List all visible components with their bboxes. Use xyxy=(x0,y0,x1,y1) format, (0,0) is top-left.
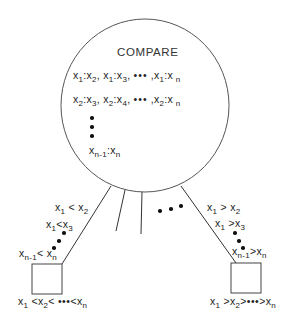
compare-title: COMPARE xyxy=(117,46,179,58)
left-leaf-label: x1 <x2< •••<xn xyxy=(18,296,87,310)
left-edge-ellipsis-dot xyxy=(62,231,66,235)
vertical-ellipsis-dot xyxy=(90,116,94,120)
right-edge-label-2: x1 >x3 xyxy=(215,218,245,232)
vertical-ellipsis-dot xyxy=(90,125,94,129)
comparison-row-last: xn-1:xn xyxy=(89,145,121,159)
left-edge-label-last: xn-1< xn xyxy=(19,248,57,262)
middle-branch-edge-2 xyxy=(141,192,142,234)
right-leaf-box xyxy=(231,263,261,293)
right-edge-ellipsis-dot xyxy=(237,239,241,243)
comparison-row-1: x1:x2, x1:x3, ••• ,x1:x n xyxy=(73,70,180,84)
row2-ellipsis: ••• xyxy=(134,93,148,105)
middle-branches-ellipsis-dot xyxy=(169,207,173,211)
middle-branch-edge-1 xyxy=(116,190,125,231)
middle-branches-ellipsis-dot xyxy=(179,204,183,208)
left-leaf-box xyxy=(32,264,62,294)
row1-ellipsis: ••• xyxy=(134,69,148,81)
vertical-ellipsis-dot xyxy=(90,134,94,138)
right-edge-label-1: x1 > x2 xyxy=(207,202,240,216)
comparison-row-2: x2:x3, x2:x4, ••• ,x2:x n xyxy=(73,94,180,108)
right-leaf-label: x1 >x2>•••>xn xyxy=(210,296,276,310)
right-edge-label-last: xn-1>xn xyxy=(232,246,267,260)
middle-branches-ellipsis-dot xyxy=(158,209,162,213)
left-edge-ellipsis-dot xyxy=(57,239,61,243)
right-edge-ellipsis-dot xyxy=(233,231,237,235)
left-edge-label-2: x1<x3 xyxy=(46,219,73,233)
left-edge-label-1: x1 < x2 xyxy=(55,202,88,216)
